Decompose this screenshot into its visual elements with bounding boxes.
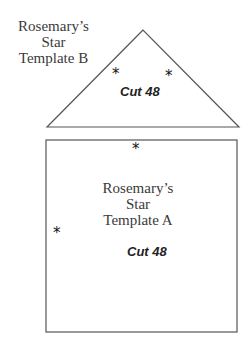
template-a-title-line2: Star <box>90 196 186 212</box>
template-a-title-line1: Rosemary’s <box>90 180 186 196</box>
template-a-cut-label: Cut 48 <box>127 244 167 259</box>
star-mark-b-right: * <box>165 69 173 84</box>
template-b-title-line1: Rosemary’s <box>6 18 101 34</box>
template-a-title-line3: Template A <box>90 212 186 228</box>
star-mark-a-top: * <box>132 142 140 157</box>
template-b-title-line3: Template B <box>6 50 101 66</box>
template-a-square <box>46 140 237 332</box>
template-a-title: Rosemary’s Star Template A <box>90 180 186 228</box>
template-b-cut-label: Cut 48 <box>120 84 160 99</box>
template-b-title-line2: Star <box>6 34 101 50</box>
star-mark-a-left: * <box>53 226 61 241</box>
template-b-title: Rosemary’s Star Template B <box>6 18 101 66</box>
star-mark-b-left: * <box>112 67 120 82</box>
